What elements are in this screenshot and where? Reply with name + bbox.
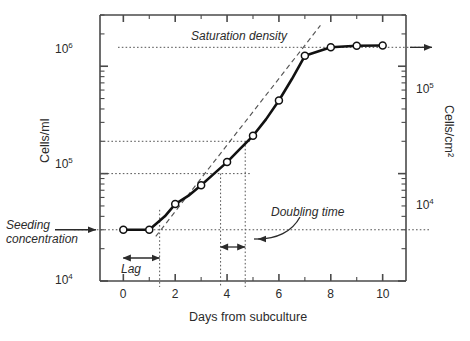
x-tick-2: 2 xyxy=(172,287,179,301)
growth-curve-markers xyxy=(120,42,386,233)
annotation-arrows xyxy=(55,47,432,258)
x-axis-top-ticks xyxy=(123,15,382,22)
seeding-concentration-label-line2: concentration xyxy=(6,232,78,246)
doubling-time-label: Doubling time xyxy=(271,205,344,219)
axis-lines xyxy=(100,15,406,281)
y-axis-left-title: Cells/ml xyxy=(38,119,52,163)
x-tick-0: 0 xyxy=(120,287,127,301)
y-left-tick-1e5: 105 xyxy=(55,156,73,171)
y-left-tick-1e6: 106 xyxy=(55,41,73,56)
x-axis-ticks xyxy=(123,274,382,281)
y-right-tick-1e4: 104 xyxy=(416,197,434,212)
y-right-tick-1e5: 105 xyxy=(416,81,434,96)
y-left-tick-1e4: 104 xyxy=(55,272,73,287)
x-tick-6: 6 xyxy=(275,287,282,301)
reference-lines xyxy=(74,47,430,287)
y-axis-right-title: Cells/cm² xyxy=(442,105,456,157)
lag-label: Lag xyxy=(121,262,141,276)
x-axis-title: Days from subculture xyxy=(189,310,307,324)
growth-curve-figure: 106 105 104 105 104 0 2 4 6 8 10 Days fr… xyxy=(0,0,470,341)
saturation-density-label: Saturation density xyxy=(191,29,287,43)
x-tick-10: 10 xyxy=(376,287,389,301)
y-axis-left-ticks xyxy=(100,15,108,281)
y-axis-right-ticks xyxy=(398,15,406,281)
x-tick-4: 4 xyxy=(224,287,231,301)
x-tick-8: 8 xyxy=(327,287,334,301)
seeding-concentration-label-line1: Seeding xyxy=(6,218,50,232)
